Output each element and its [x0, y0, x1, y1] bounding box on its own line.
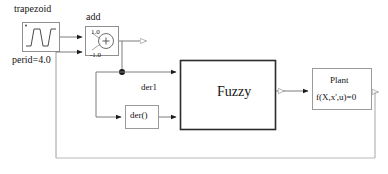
label-add: add	[86, 12, 100, 22]
block-diagram-canvas	[0, 0, 388, 174]
label-der1: der1	[141, 83, 157, 92]
label-gain-positive: 1.0	[91, 29, 100, 36]
label-fuzzy: Fuzzy	[217, 85, 251, 99]
label-perid: perid=4.0	[12, 55, 51, 65]
label-trapezoid: trapezoid	[14, 4, 51, 14]
label-plant-equation: f(X,x',u)=0	[316, 93, 356, 102]
block-trapezoid[interactable]	[23, 23, 60, 52]
label-plant: Plant	[330, 76, 349, 85]
label-gain-negative: -1.0	[90, 52, 101, 59]
wire-error-to-der	[96, 72, 121, 117]
label-der-function: der()	[130, 111, 148, 120]
